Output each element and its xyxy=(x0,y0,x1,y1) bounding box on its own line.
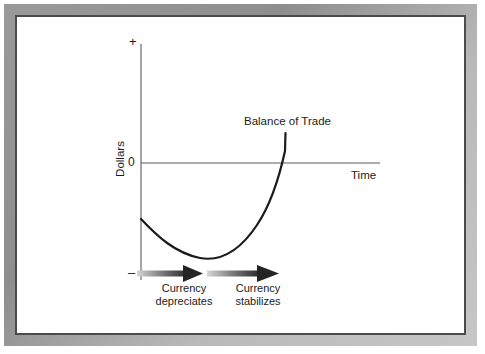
y-axis-zero-label: 0 xyxy=(128,155,135,169)
y-axis-positive-marker: + xyxy=(129,37,137,47)
x-axis-title: Time xyxy=(351,169,376,181)
caption-line-1: Currency xyxy=(203,282,313,295)
plot-area: + – 0 Dollars Time Balance of Trade Curr… xyxy=(17,17,464,333)
currency-stabilizes-arrow xyxy=(207,265,279,282)
currency-depreciates-arrow xyxy=(137,265,203,282)
y-axis-title: Dollars xyxy=(114,135,126,183)
caption-line-2: stabilizes xyxy=(203,295,313,308)
figure-canvas: + – 0 Dollars Time Balance of Trade Curr… xyxy=(17,17,464,333)
series-label-balance-of-trade: Balance of Trade xyxy=(244,115,331,127)
balance-of-trade-curve xyxy=(141,133,286,259)
y-axis-negative-marker: – xyxy=(128,268,135,278)
caption-currency-stabilizes: Currency stabilizes xyxy=(203,282,313,307)
